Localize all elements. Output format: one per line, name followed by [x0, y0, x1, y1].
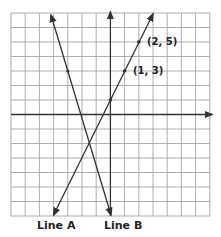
point-2-5 [137, 40, 141, 44]
point-b [66, 69, 69, 72]
point-1-3 [123, 69, 127, 73]
point-label-2-5: (2, 5) [147, 36, 177, 47]
point-label-1-3: (1, 3) [133, 65, 163, 76]
coordinate-graph [0, 0, 221, 237]
point-0-1 [109, 98, 113, 102]
line-b-label: Line B [104, 219, 142, 232]
axes [11, 12, 212, 216]
line-a-label: Line A [37, 219, 75, 232]
